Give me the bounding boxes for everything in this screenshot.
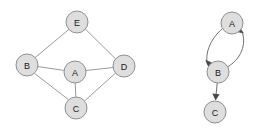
right-graph-nodes: A B C <box>204 12 243 123</box>
edge-A-D <box>86 68 113 71</box>
edge-E-D <box>85 29 115 59</box>
edge-B-C <box>35 73 69 99</box>
node-C-circle[interactable] <box>65 97 87 119</box>
left-graph: E B A D C <box>16 11 135 119</box>
node-E[interactable]: E <box>66 11 88 33</box>
left-graph-nodes: E B A D C <box>16 11 135 119</box>
graph-canvas: E B A D C <box>0 0 271 130</box>
node-D-circle[interactable] <box>113 55 135 77</box>
edge-C-D <box>84 73 115 101</box>
edge-B-to-C-arrowhead <box>212 94 219 101</box>
node-B-directed-circle[interactable] <box>207 61 229 83</box>
node-A-directed-circle[interactable] <box>221 12 243 34</box>
node-A-circle[interactable] <box>64 61 86 83</box>
node-A-directed[interactable]: A <box>221 12 243 34</box>
node-B[interactable]: B <box>16 54 38 76</box>
node-C[interactable]: C <box>65 97 87 119</box>
edge-B-to-A <box>228 30 244 68</box>
edge-B-A <box>38 67 64 71</box>
node-C-directed-circle[interactable] <box>204 101 226 123</box>
node-D[interactable]: D <box>113 55 135 77</box>
node-B-directed[interactable]: B <box>207 61 229 83</box>
node-A[interactable]: A <box>64 61 86 83</box>
node-C-directed[interactable]: C <box>204 101 226 123</box>
figure-root: E B A D C <box>0 0 271 130</box>
edge-E-B <box>35 29 69 57</box>
node-B-circle[interactable] <box>16 54 38 76</box>
node-E-circle[interactable] <box>66 11 88 33</box>
edge-A-C <box>75 83 76 97</box>
edge-A-to-B <box>207 29 223 65</box>
right-graph: A B C <box>204 12 244 123</box>
